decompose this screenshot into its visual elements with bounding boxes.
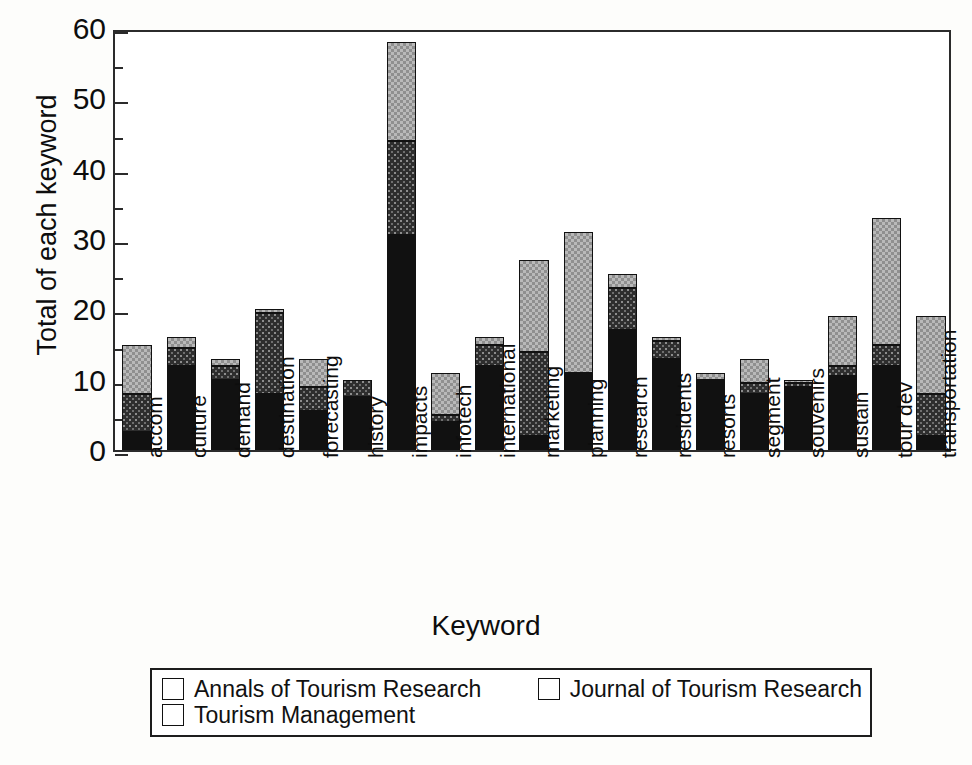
x-tick-label: international [497,344,518,458]
x-tick-label: forecasting [320,355,341,458]
legend: Annals of Tourism Research Journal of To… [150,668,872,737]
legend-entry-journal[interactable]: Journal of Tourism Research [538,676,862,702]
bar-segment[interactable] [122,345,151,394]
y-tick-label: 0 [34,436,106,466]
x-tick-label: segment [762,377,783,458]
x-tick-label: souvenirs [806,368,827,458]
bar-segment[interactable] [564,232,593,373]
y-tick-label: 60 [34,14,106,44]
x-tick-label: history [365,396,386,458]
legend-row-1: Annals of Tourism Research Journal of To… [162,676,862,702]
legend-row-2: Tourism Management [162,702,862,728]
bar-segment[interactable] [211,366,240,380]
x-tick-label: resorts [717,394,738,458]
bar-segment[interactable] [387,141,416,236]
bar-segment[interactable] [652,341,681,359]
bar-stack[interactable] [828,28,857,450]
x-tick-label: transportation [938,330,959,458]
x-tick-label: research [629,376,650,458]
x-tick-label: destination [276,356,297,458]
legend-swatch-tourism-management-icon [162,704,184,726]
bar-stack[interactable] [696,28,725,450]
legend-entry-tourism-management[interactable]: Tourism Management [162,702,552,728]
x-tick-label: accom [144,396,165,458]
y-tick-label: 50 [34,84,106,114]
legend-swatch-annals-icon [162,678,184,700]
bar-segment[interactable] [167,337,196,348]
x-tick-label: planning [585,379,606,458]
legend-entry-annals[interactable]: Annals of Tourism Research [162,676,538,702]
legend-label-tourism-management: Tourism Management [194,702,415,728]
x-tick-label: marketing [541,366,562,458]
bar-segment[interactable] [828,316,857,365]
x-tick-label: infotech [453,384,474,458]
bar-segment[interactable] [872,218,901,345]
legend-label-annals: Annals of Tourism Research [194,676,481,702]
y-tick-label: 40 [34,155,106,185]
x-tick-label: residents [673,373,694,458]
bar-segment[interactable] [608,274,637,288]
y-tick-label: 20 [34,295,106,325]
bar-stack[interactable] [343,28,372,450]
bar-segment[interactable] [255,309,284,313]
x-tick-label: demand [232,382,253,458]
bar-segment[interactable] [608,288,637,330]
y-tick-label: 10 [34,366,106,396]
bar-stack[interactable] [167,28,196,450]
bar-chart-figure: Total of each keyword 0102030405060 acco… [0,0,972,765]
bar-segment[interactable] [519,260,548,351]
y-tick-label: 30 [34,225,106,255]
x-tick-label: culture [188,395,209,458]
bar-segment[interactable] [387,42,416,140]
bar-segment[interactable] [872,345,901,366]
bar-segment[interactable] [696,373,725,380]
bar-segment[interactable] [211,359,240,366]
y-axis-tick-labels: 0102030405060 [34,0,106,470]
legend-swatch-journal-icon [538,678,560,700]
bar-segment[interactable] [343,380,372,398]
bar-segment[interactable] [828,366,857,377]
y-tick-major [115,454,128,456]
x-tick-label: sustain [850,391,871,458]
legend-label-journal: Journal of Tourism Research [570,676,862,702]
x-tick-label: tour dev [894,382,915,458]
x-tick-label: impacts [409,386,430,458]
x-axis-title: Keyword [0,610,972,642]
bar-stack[interactable] [122,28,151,450]
bar-segment[interactable] [167,348,196,366]
bar-segment[interactable] [652,337,681,341]
